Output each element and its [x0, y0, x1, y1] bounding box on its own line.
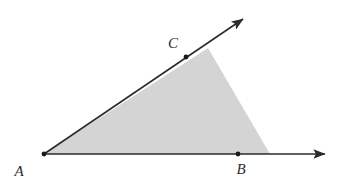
- point-label-b: B: [237, 162, 246, 177]
- point-label-c: C: [168, 36, 178, 51]
- angle-interior-shading: [44, 48, 270, 154]
- geometry-figure: A B C: [0, 0, 342, 186]
- figure-svg-canvas: [0, 0, 342, 186]
- point-label-a: A: [15, 164, 24, 179]
- point-c-dot: [184, 55, 189, 60]
- point-a-vertex: [42, 152, 47, 157]
- point-b-dot: [236, 152, 241, 157]
